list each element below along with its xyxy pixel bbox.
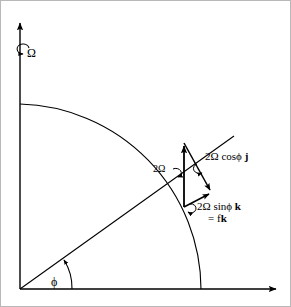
omega-sin-label: 2Ω sinϕ k — [197, 201, 241, 213]
latitude-angle-arc — [64, 260, 72, 289]
unit-vector-k: k — [235, 200, 241, 212]
coriolis-parameter-equation: = fk — [208, 213, 227, 225]
equation-prefix: = f — [208, 212, 221, 224]
omega-cos-label-text: 2Ω cosϕ — [205, 150, 245, 162]
unit-vector-k-equation: k — [221, 212, 227, 224]
unit-vector-j: j — [245, 150, 249, 162]
coriolis-decomposition-diagram: Ω 2Ω 2Ω cosϕ j 2Ω sinϕ k = fk ϕ — [0, 0, 291, 307]
sin-spin-icon — [188, 204, 196, 213]
omega-cos-label: 2Ω cosϕ j — [205, 151, 248, 163]
omega-sin-label-text: 2Ω sinϕ — [197, 200, 235, 212]
rotation-axis-label: Ω — [27, 47, 36, 60]
earth-surface-arc — [20, 104, 201, 289]
omega-total-label: 2Ω — [153, 164, 165, 175]
latitude-angle-label: ϕ — [51, 276, 57, 289]
omega-spin-icon — [173, 168, 181, 177]
